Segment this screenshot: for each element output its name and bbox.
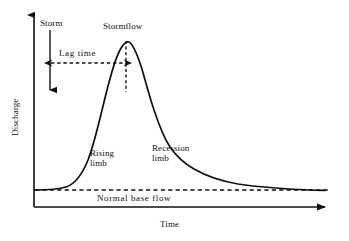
stormflow-label: Stormflow	[103, 21, 142, 31]
lag-time-label: Lag time	[59, 48, 96, 58]
hydrograph-figure: Storm Lag time Stormflow Rising limb Rec…	[0, 0, 349, 241]
rising-limb-label-line1: Rising	[90, 148, 114, 158]
storm-label: Storm	[40, 18, 63, 28]
normal-base-flow-label: Normal base flow	[97, 193, 171, 203]
x-axis-label: Time	[160, 219, 179, 229]
y-axis-label: Discharge	[10, 86, 20, 148]
rising-limb-label-line2: limb	[90, 158, 114, 168]
recession-limb-label: Recession limb	[152, 143, 189, 164]
recession-limb-label-line2: limb	[152, 153, 189, 163]
hydrograph-canvas	[0, 0, 349, 241]
rising-limb-label: Rising limb	[90, 148, 114, 169]
hydrograph-curve	[35, 42, 325, 191]
recession-limb-label-line1: Recession	[152, 143, 189, 153]
